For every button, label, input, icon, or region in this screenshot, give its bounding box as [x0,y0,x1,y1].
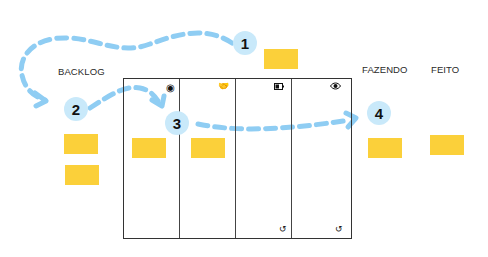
sticky-note-done[interactable] [430,135,464,155]
step-number: 3 [173,115,181,132]
step-number: 4 [375,105,383,122]
handshake-icon: 🤝 [218,82,229,91]
eye-icon [330,82,341,92]
step-badge-2: 2 [64,97,88,121]
step-number: 2 [72,101,80,118]
undo-icon: ↺ [279,225,287,234]
sticky-note-board[interactable] [132,138,166,158]
doing-label: FAZENDO [362,64,408,75]
sticky-note-backlog[interactable] [64,134,98,154]
column-divider [235,79,236,238]
sticky-note[interactable] [264,49,298,69]
column-divider [291,79,292,238]
done-label: FEITO [431,64,459,75]
column-divider [179,79,180,238]
kanban-board: ◉ 🤝 ↺ ↺ [123,78,352,239]
step-badge-4: 4 [367,101,391,125]
sticky-note-doing[interactable] [368,138,402,158]
sticky-note-backlog[interactable] [65,165,99,185]
step-badge-1: 1 [233,31,257,55]
sticky-note-board[interactable] [191,138,225,158]
arrowhead-2 [35,93,46,106]
target-icon: ◉ [166,83,175,92]
step-number: 1 [241,35,249,52]
step-badge-3: 3 [165,111,189,135]
undo-icon: ↺ [335,225,343,234]
backlog-label: BACKLOG [58,66,105,77]
battery-icon [274,83,284,92]
